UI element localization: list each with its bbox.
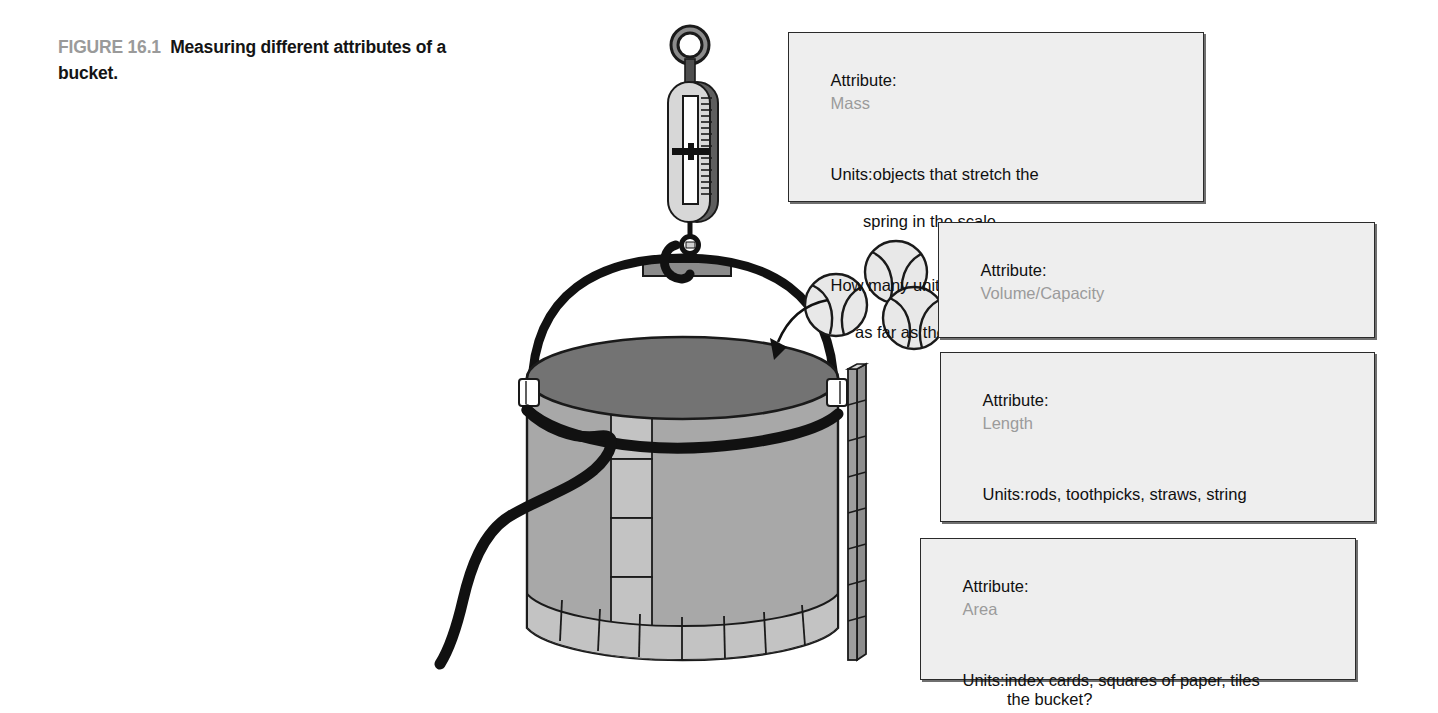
attribute-label: Attribute: bbox=[963, 577, 1029, 595]
attribute-label: Attribute: bbox=[983, 391, 1049, 409]
callout-units-line: Units:rods, toothpicks, straws, string bbox=[955, 459, 1360, 530]
units-value: objects that stretch the bbox=[873, 165, 1039, 183]
callout-mass: Attribute: Mass Units:objects that stret… bbox=[788, 32, 1204, 202]
units-label: Units: bbox=[963, 671, 1005, 689]
units-label: Units: bbox=[831, 165, 873, 183]
callout-attribute-line: Attribute: Mass bbox=[803, 45, 1189, 139]
spring-scale-icon bbox=[668, 30, 718, 267]
units-value: index cards, squares of paper, tiles bbox=[1005, 671, 1260, 689]
bucket bbox=[527, 337, 838, 695]
units-label: Units: bbox=[983, 485, 1025, 503]
callout-length: Attribute: Length Units:rods, toothpicks… bbox=[940, 352, 1375, 522]
attribute-label: Attribute: bbox=[831, 71, 897, 89]
callout-attribute-line: Attribute: Area bbox=[935, 551, 1341, 645]
callout-units-line: Units:objects that stretch the bbox=[803, 139, 1189, 210]
units-value: rods, toothpicks, straws, string bbox=[1025, 485, 1247, 503]
callout-units-line: Units:index cards, squares of paper, til… bbox=[935, 645, 1341, 713]
attribute-value: Area bbox=[963, 600, 998, 618]
callout-attribute-line: Attribute: Length bbox=[955, 365, 1360, 459]
callout-volume: Attribute: Volume/Capacity Units:cubes, … bbox=[938, 222, 1375, 338]
callout-area: Attribute: Area Units:index cards, squar… bbox=[920, 538, 1356, 680]
bucket-opening bbox=[527, 337, 838, 419]
attribute-value: Mass bbox=[831, 94, 870, 112]
callout-attribute-line: Attribute: Volume/Capacity bbox=[953, 235, 1360, 329]
attribute-value: Length bbox=[983, 414, 1033, 432]
attribute-value: Volume/Capacity bbox=[981, 284, 1105, 302]
figure-canvas: FIGURE 16.1 Measuring different attribut… bbox=[0, 0, 1438, 713]
handle-mount-right bbox=[827, 379, 847, 406]
measuring-rod bbox=[848, 364, 866, 660]
attribute-label: Attribute: bbox=[981, 261, 1047, 279]
handle-mount-left bbox=[519, 379, 539, 406]
